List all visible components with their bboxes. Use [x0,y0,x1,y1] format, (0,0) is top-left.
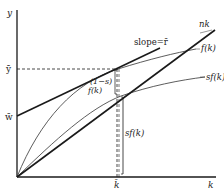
x-axis-label: k [208,180,213,188]
w-bar-label: w̄ [5,112,13,122]
tangent-line [17,48,160,116]
k-bar-label: k̄ [114,179,119,188]
f-k-bracket-label: f(k) [87,86,102,95]
y-bar-label: ȳ [5,64,12,74]
slope-label: slope=r̄ [134,37,169,47]
sf-k-curve [17,77,205,177]
nk-leader [200,30,212,33]
f-k-label: f(k) [200,43,216,53]
growth-diagram: y k ȳ w̄ k̄ nk f(k) sf(k) slope=r̄ (1−s)… [0,0,224,188]
nk-label: nk [199,19,210,29]
sf-k-bracket-label: sf(k) [125,128,144,138]
nk-line [17,30,215,177]
sf-k-label: sf(k) [206,72,224,82]
y-axis-label: y [6,8,13,18]
one-minus-s-label: (1−s) [90,77,112,86]
